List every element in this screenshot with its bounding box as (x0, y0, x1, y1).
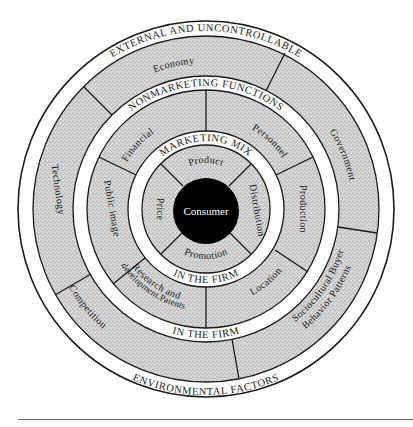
segment-price: Price (155, 198, 166, 221)
segment-production: Production (298, 185, 309, 233)
consumer-label: Consumer (183, 205, 229, 217)
marketing-environment-diagram: Consumer EXTERNAL AND UNCONTROLLABLE ENV… (0, 0, 413, 427)
bottom-rule (18, 419, 413, 420)
